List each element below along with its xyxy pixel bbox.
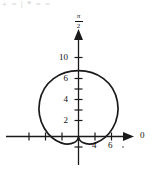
two-denominator: 2 xyxy=(72,22,85,30)
y-axis-arrow-icon xyxy=(74,29,83,40)
x-axis-arrow-icon xyxy=(123,132,134,141)
x-tick-label-6: 6 xyxy=(108,141,113,150)
scan-speck xyxy=(122,146,124,148)
figure-screenshot: + = | * = = xyxy=(0,0,155,169)
x-axis-group xyxy=(6,132,134,141)
y-tick-label-6: 6 xyxy=(52,74,68,83)
pi-numerator: π xyxy=(72,13,85,21)
vertical-axis-label: π 2 xyxy=(72,13,85,30)
y-tick-label-2: 2 xyxy=(52,116,68,125)
polar-axis-label: 0 xyxy=(140,131,145,140)
y-tick-label-10: 10 xyxy=(52,53,68,62)
x-tick-label-4: 4 xyxy=(92,141,97,150)
y-tick-label-4: 4 xyxy=(52,95,68,104)
y-axis-group xyxy=(74,29,83,165)
